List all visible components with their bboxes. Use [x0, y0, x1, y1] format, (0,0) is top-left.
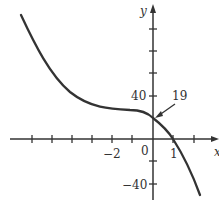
x-axis-label: x — [214, 145, 219, 159]
x-tick-label-0: 0 — [141, 144, 149, 158]
x-axis-arrow-icon — [211, 136, 219, 142]
x-tick-label-neg2: −2 — [103, 147, 121, 161]
y-tick-label-40: 40 — [131, 89, 146, 103]
y-tick-label-neg40: −40 — [122, 178, 147, 192]
y-axis-arrow-icon — [150, 4, 156, 13]
x-tick-label-1: 1 — [170, 147, 178, 161]
annotation-label: 19 — [172, 89, 187, 103]
annotation-arrow-icon — [155, 111, 163, 118]
cubic-graph: y x 40 −40 −2 0 1 19 — [0, 0, 219, 207]
y-axis-label: y — [139, 4, 147, 18]
